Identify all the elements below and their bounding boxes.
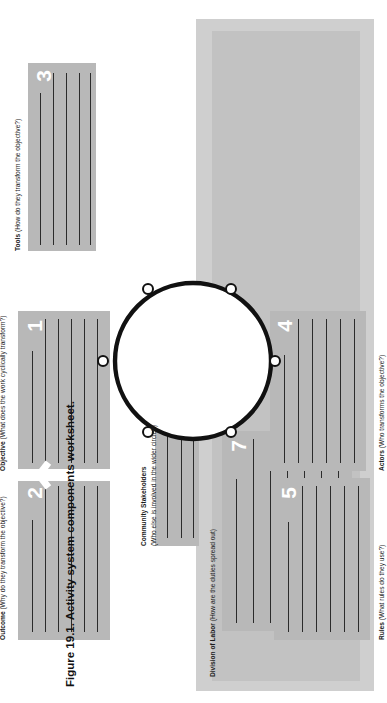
box-rules[interactable]: 5 (274, 478, 370, 640)
write-line[interactable] (344, 486, 345, 632)
label-division-of-labor: Division of Labor (How are the duties sp… (209, 529, 218, 677)
label-objective-question: (What does the work cyclically transform… (0, 316, 6, 440)
write-line[interactable] (326, 319, 327, 463)
write-line[interactable] (253, 439, 254, 623)
label-rules: Rules (What rules do they use?) (378, 545, 387, 640)
write-line[interactable] (45, 486, 46, 632)
write-line[interactable] (66, 73, 67, 245)
label-tools: Tools (How do they transform the objecti… (14, 119, 23, 251)
label-actors-question: (Who transforms the objective?) (378, 355, 385, 448)
label-actors-title: Actors (378, 450, 385, 471)
box-number-rules: 5 (278, 487, 299, 499)
connector-node[interactable] (225, 426, 237, 438)
label-actors: Actors (Who transforms the objective?) (378, 355, 387, 471)
write-line[interactable] (45, 319, 46, 463)
box-number-objective: 1 (24, 320, 45, 332)
activity-system-circle (103, 271, 283, 451)
label-rules-question: (What rules do they use?) (378, 545, 385, 621)
write-line[interactable] (302, 486, 303, 632)
write-line[interactable] (97, 486, 98, 632)
write-line[interactable] (40, 93, 41, 245)
connector-node[interactable] (225, 283, 237, 295)
write-line[interactable] (97, 319, 98, 463)
box-tools[interactable]: 3 (28, 63, 96, 251)
label-outcome: Outcome (Why do they transform the objec… (0, 496, 8, 640)
write-line[interactable] (58, 319, 59, 463)
write-line[interactable] (90, 73, 91, 245)
write-line[interactable] (32, 520, 33, 632)
label-outcome-title: Outcome (0, 611, 6, 640)
write-line[interactable] (288, 522, 289, 632)
connector-node[interactable] (142, 283, 154, 295)
label-tools-question: (How do they transform the objective?) (14, 119, 21, 232)
write-line[interactable] (58, 486, 59, 632)
write-line[interactable] (354, 319, 355, 463)
write-line[interactable] (340, 319, 341, 463)
write-line[interactable] (53, 73, 54, 245)
box-number-outcome: 2 (24, 487, 45, 499)
write-line[interactable] (236, 479, 237, 623)
figure-caption: Figure 19.1. Activity system components … (64, 437, 76, 687)
write-line[interactable] (84, 486, 85, 632)
label-community-stakeholders: Community Stakeholders (Who else is invo… (139, 425, 158, 546)
write-line[interactable] (284, 355, 285, 463)
label-tools-title: Tools (14, 234, 21, 251)
label-community-stakeholders-title: Community Stakeholders (140, 466, 147, 546)
box-number-tools: 3 (33, 70, 54, 82)
write-line[interactable] (298, 319, 299, 463)
write-line[interactable] (316, 486, 317, 632)
label-objective: Objective (What does the work cyclically… (0, 316, 8, 471)
write-line[interactable] (358, 486, 359, 632)
label-outcome-question: (Why do they transform the objective?) (0, 496, 6, 609)
connector-node[interactable] (97, 355, 109, 367)
label-division-of-labor-question: (How are the duties spread out) (209, 529, 216, 621)
write-line[interactable] (79, 73, 80, 245)
write-line[interactable] (84, 319, 85, 463)
label-rules-title: Rules (378, 622, 385, 640)
write-line[interactable] (330, 486, 331, 632)
write-line[interactable] (32, 351, 33, 463)
label-community-stakeholders-question: (Who else is involved in the wider circl… (150, 425, 157, 546)
connector-node[interactable] (269, 355, 281, 367)
box-actors[interactable]: 4 (270, 311, 366, 471)
label-division-of-labor-title: Division of Labor (209, 623, 216, 677)
write-line[interactable] (312, 319, 313, 463)
label-objective-title: Objective (0, 441, 6, 471)
